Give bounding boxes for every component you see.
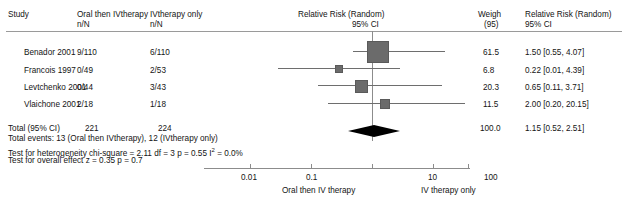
x-axis-caption-left: Oral then IV therapy xyxy=(282,186,355,195)
column-header-effect-ci: 95% CI xyxy=(525,20,552,30)
forest-plot-canvas xyxy=(240,30,470,178)
confidence-interval-line xyxy=(318,85,442,86)
x-axis-tick-0.1 xyxy=(311,164,312,168)
table-row-control: 6/110 xyxy=(150,48,170,58)
table-row-weight: 11.5 xyxy=(483,100,498,110)
total-row-control: 224 xyxy=(158,124,172,134)
table-row-effect: 1.50 [0.55, 4.07] xyxy=(525,48,584,58)
x-axis-label-0.1: 0.1 xyxy=(306,173,317,182)
table-row-treatment: 9/110 xyxy=(77,48,97,58)
column-header-study: Study xyxy=(8,10,29,20)
table-row-treatment: 0/49 xyxy=(77,66,93,76)
column-header-control: IVtherapy only xyxy=(150,10,202,20)
effect-marker-box xyxy=(367,41,389,63)
x-axis-label-100: 100 xyxy=(484,173,498,182)
column-header-treatment: Oral then IVtherapy xyxy=(77,10,148,20)
total-row-treatment: 221 xyxy=(85,124,99,134)
table-row-weight: 20.3 xyxy=(483,83,499,93)
total-row-effect: 1.15 [0.52, 2.51] xyxy=(525,124,584,134)
table-row-weight: 61.5 xyxy=(483,48,499,58)
forest-plot-figure: Study Oral then IVtherapy n/N IVtherapy … xyxy=(0,0,629,201)
table-row-effect: 2.00 [0.20, 20.15] xyxy=(525,100,589,110)
table-row-control: 2/53 xyxy=(150,66,166,76)
table-row-treatment: 2/18 xyxy=(77,100,93,110)
column-header-weight-ci: (95) xyxy=(484,20,499,30)
total-events-text: Total events: 13 (Oral then IVtherapy), … xyxy=(8,134,218,144)
heterogeneity-text-tail: = 0.0% xyxy=(215,149,243,158)
column-header-control-nN: n/N xyxy=(150,20,163,30)
table-row-weight: 6.8 xyxy=(483,66,494,76)
column-header-treatment-nN: n/N xyxy=(77,20,90,30)
effect-marker-box xyxy=(380,99,390,109)
table-row-study: Benador 2001 xyxy=(24,48,75,58)
table-row-control: 3/43 xyxy=(150,83,166,93)
table-row-study: Vlaichone 2001 xyxy=(24,100,80,110)
overall-effect-test-text: Test for overall effect z = 0.35 p = 0.7 xyxy=(8,156,143,166)
column-header-plot-ci: 95% CI xyxy=(352,20,379,30)
table-row-control: 1/18 xyxy=(150,100,166,110)
column-header-plot: Relative Risk (Random) xyxy=(298,10,384,20)
x-axis-label-10: 10 xyxy=(428,173,437,182)
x-axis-caption-right: IV therapy only xyxy=(421,186,476,195)
x-axis-line xyxy=(204,168,470,169)
x-axis-tick-10 xyxy=(433,164,434,168)
total-row-weight: 100.0 xyxy=(480,124,501,134)
table-row-effect: 0.65 [0.11, 3.71] xyxy=(525,83,584,93)
x-axis-tick-1 xyxy=(372,164,373,168)
pooled-effect-diamond xyxy=(348,123,400,139)
x-axis-tick-100 xyxy=(468,164,469,168)
x-axis-label-0.01: 0.01 xyxy=(241,173,257,182)
column-header-weight: Weigh xyxy=(478,10,501,20)
confidence-interval-line xyxy=(328,103,465,104)
table-row-treatment: 0/44 xyxy=(77,83,93,93)
effect-marker-box xyxy=(355,80,368,93)
column-header-effect: Relative Risk (Random) xyxy=(525,10,611,20)
effect-marker-box xyxy=(335,65,343,73)
table-row-effect: 0.22 [0.01, 4.39] xyxy=(525,66,584,76)
total-row-label: Total (95% CI) xyxy=(8,124,60,134)
table-row-study: Francois 1997 xyxy=(24,66,76,76)
x-axis-tick-0.01 xyxy=(250,164,251,168)
